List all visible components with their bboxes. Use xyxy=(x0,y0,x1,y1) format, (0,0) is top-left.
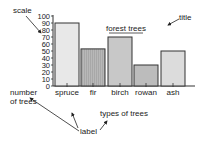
x-tick-label-spruce: spruce xyxy=(55,88,80,97)
bar-rowan xyxy=(134,65,158,86)
bar-birch xyxy=(108,37,132,86)
arrow-label-xtick-icon xyxy=(72,113,78,128)
x-tick-label-fir: fir xyxy=(90,88,97,97)
y-tick-labels: 1009080706050403020100 xyxy=(37,12,53,91)
bar-ash xyxy=(161,51,185,86)
annotation-title: title xyxy=(179,13,192,22)
arrow-label-xlabel-icon xyxy=(100,121,107,130)
annotation-label: label xyxy=(80,127,97,136)
x-tick-label-rowan: rowan xyxy=(135,88,157,97)
annotation-scale: scale xyxy=(13,6,32,15)
bar-fir xyxy=(81,49,105,86)
x-tick-label-ash: ash xyxy=(167,88,180,97)
bar-spruce xyxy=(55,23,79,86)
arrow-label-ylabel-icon xyxy=(30,98,79,131)
x-tick-label-birch: birch xyxy=(111,88,128,97)
arrow-title-icon xyxy=(168,19,179,25)
y-axis-label: number of trees xyxy=(10,88,39,106)
bar-chart: 1009080706050403020100 sprucefirbirchrow… xyxy=(0,0,209,142)
chart-title: forest trees xyxy=(106,24,146,33)
y-tick-label: 0 xyxy=(46,82,50,91)
x-axis-label: types of trees xyxy=(100,109,148,118)
